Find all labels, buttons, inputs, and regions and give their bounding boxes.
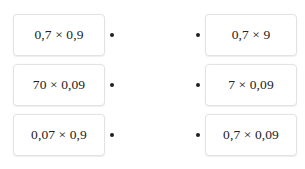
right-connector-dot[interactable] (196, 83, 200, 87)
expression-text: 7 × 0,09 (228, 78, 274, 92)
matching-row: 0,7 × 0,9 0,7 × 9 (0, 14, 305, 56)
matching-row: 0,07 × 0,9 0,7 × 0,09 (0, 114, 305, 156)
right-option-card[interactable]: 0,7 × 0,09 (205, 114, 297, 156)
left-connector-dot[interactable] (110, 133, 114, 137)
left-connector-dot[interactable] (110, 83, 114, 87)
right-connector-dot[interactable] (196, 33, 200, 37)
right-option-card[interactable]: 0,7 × 9 (205, 14, 297, 56)
expression-text: 0,7 × 0,9 (34, 28, 83, 42)
left-option-card[interactable]: 0,07 × 0,9 (13, 114, 105, 156)
left-connector-dot[interactable] (110, 33, 114, 37)
right-option-card[interactable]: 7 × 0,09 (205, 64, 297, 106)
left-option-card[interactable]: 0,7 × 0,9 (13, 14, 105, 56)
right-connector-dot[interactable] (196, 133, 200, 137)
left-option-card[interactable]: 70 × 0,09 (13, 64, 105, 106)
expression-text: 0,7 × 9 (232, 28, 271, 42)
expression-text: 0,7 × 0,09 (223, 128, 279, 142)
expression-text: 70 × 0,09 (33, 78, 85, 92)
expression-text: 0,07 × 0,9 (31, 128, 87, 142)
matching-row: 70 × 0,09 7 × 0,09 (0, 64, 305, 106)
matching-exercise: 0,7 × 0,9 0,7 × 9 70 × 0,09 7 × 0,09 0,0… (0, 0, 305, 169)
